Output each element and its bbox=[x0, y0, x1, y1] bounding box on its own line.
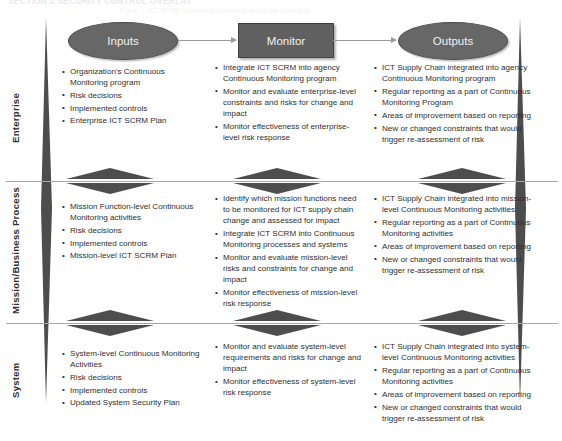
biarrow-outputs-ent-mis-icon bbox=[418, 168, 506, 194]
list-item: Risk decisions bbox=[62, 372, 204, 383]
list-item: Integrate ICT SCRM into Continuous Monit… bbox=[215, 228, 365, 250]
inputs-node-label: Inputs bbox=[107, 35, 138, 47]
list-item: Regular reporting as a part of Continuou… bbox=[374, 365, 546, 387]
outputs-node-label: Outputs bbox=[433, 35, 473, 47]
system-outputs-list: ICT Supply Chain integrated into system-… bbox=[374, 341, 546, 425]
list-item: Mission-level ICT SCRM Plan bbox=[62, 250, 204, 261]
page-header-text: SECTION 2 SECURITY CONTROL OVERLAY bbox=[8, 0, 554, 6]
list-item: New or changed constraints that would tr… bbox=[374, 123, 546, 145]
list-item: Implemented controls bbox=[62, 238, 204, 249]
monitor-node-label: Monitor bbox=[267, 35, 305, 47]
list-item: ICT Supply Chain integrated into mission… bbox=[374, 193, 546, 215]
diagram-canvas: SECTION 2 SECURITY CONTROL OVERLAY Figur… bbox=[0, 0, 562, 441]
list-item: Areas of improvement based on reporting bbox=[374, 241, 546, 252]
biarrow-monitor-mis-sys-icon bbox=[233, 310, 321, 336]
enterprise-outputs-list: ICT Supply Chain integrated into agency … bbox=[374, 62, 546, 146]
tier-label-mission-text: Mission/Business Process bbox=[10, 186, 21, 313]
mission-outputs-list: ICT Supply Chain integrated into mission… bbox=[374, 193, 546, 277]
list-item: Organization's Continuous Monitoring pro… bbox=[62, 66, 204, 88]
arrow-monitor-to-outputs bbox=[333, 40, 396, 41]
mission-monitor-list: Identify which mission functions need to… bbox=[215, 193, 365, 311]
page-subheader-text: Figure — ICT SCRM Continuous Monitoring … bbox=[120, 7, 550, 15]
monitor-node: Monitor bbox=[238, 23, 334, 58]
biarrow-monitor-ent-mis-icon bbox=[233, 168, 321, 194]
tier-label-mission: Mission/Business Process bbox=[0, 180, 30, 320]
list-item: New or changed constraints that would tr… bbox=[374, 402, 546, 424]
list-item: Integrate ICT SCRM into agency Continuou… bbox=[215, 62, 365, 84]
tier-label-system-text: System bbox=[10, 362, 21, 398]
enterprise-monitor-list: Integrate ICT SCRM into agency Continuou… bbox=[215, 62, 365, 145]
biarrow-inputs-ent-mis-icon bbox=[66, 168, 154, 194]
list-item: ICT Supply Chain integrated into system-… bbox=[374, 341, 546, 363]
list-item: Risk decisions bbox=[62, 225, 204, 236]
list-item: Monitor effectiveness of mission-level r… bbox=[215, 287, 365, 309]
list-item: Monitor and evaluate mission-level risks… bbox=[215, 252, 365, 286]
biarrow-outputs-mis-sys-icon bbox=[418, 310, 506, 336]
list-item: Risk decisions bbox=[62, 90, 204, 101]
list-item: Enterprise ICT SCRM Plan bbox=[62, 115, 204, 126]
list-item: ICT Supply Chain integrated into agency … bbox=[374, 62, 546, 84]
list-item: System-level Continuous Monitoring Activ… bbox=[62, 348, 204, 370]
left-tier-wedge-icon bbox=[38, 18, 54, 403]
list-item: Areas of improvement based on reporting bbox=[374, 389, 546, 400]
mission-inputs-list: Mission Function-level Continuous Monito… bbox=[62, 201, 204, 263]
list-item: Implemented controls bbox=[62, 103, 204, 114]
list-item: Regular reporting as a part of Continuou… bbox=[374, 86, 546, 108]
system-monitor-list: Monitor and evaluate system-level requir… bbox=[215, 341, 365, 400]
inputs-node: Inputs bbox=[68, 22, 178, 60]
outputs-node: Outputs bbox=[398, 22, 508, 60]
list-item: Mission Function-level Continuous Monito… bbox=[62, 201, 204, 223]
list-item: Areas of improvement based on reporting bbox=[374, 110, 546, 121]
list-item: Monitor and evaluate system-level requir… bbox=[215, 341, 365, 375]
tier-label-enterprise-text: Enterprise bbox=[10, 93, 21, 143]
tier-label-enterprise: Enterprise bbox=[0, 62, 30, 174]
list-item: Monitor effectiveness of enterprise-leve… bbox=[215, 121, 365, 143]
system-inputs-list: System-level Continuous Monitoring Activ… bbox=[62, 348, 204, 410]
arrow-inputs-to-monitor bbox=[178, 40, 236, 41]
list-item: Identify which mission functions need to… bbox=[215, 193, 365, 227]
list-item: Regular reporting as a part of Continuou… bbox=[374, 217, 546, 239]
list-item: Monitor effectiveness of system-level ri… bbox=[215, 376, 365, 398]
list-item: Implemented controls bbox=[62, 385, 204, 396]
biarrow-inputs-mis-sys-icon bbox=[66, 310, 154, 336]
list-item: Monitor and evaluate enterprise-level co… bbox=[215, 86, 365, 120]
tier-label-system: System bbox=[0, 330, 30, 430]
enterprise-inputs-list: Organization's Continuous Monitoring pro… bbox=[62, 66, 204, 128]
list-item: New or changed constraints that would tr… bbox=[374, 254, 546, 276]
list-item: Updated System Security Plan bbox=[62, 397, 204, 408]
